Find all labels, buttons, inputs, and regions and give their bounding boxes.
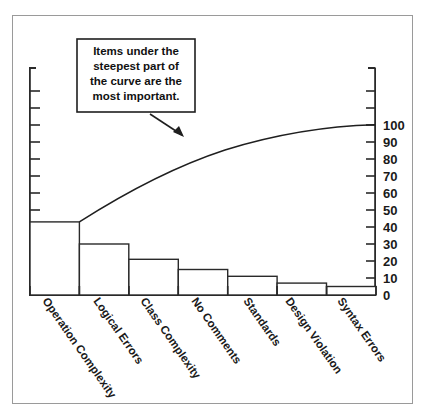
right-tick-label-70: 70 [383, 169, 397, 184]
x-axis-category-labels: Operation Complexity Logical Errors Clas… [40, 295, 388, 400]
bar-logical-errors[interactable] [79, 244, 128, 295]
right-tick-label-60: 60 [383, 186, 397, 201]
callout-arrow-icon [150, 114, 184, 137]
callout-line-2: steepest part of [93, 60, 179, 72]
pareto-chart: 0 10 20 30 40 50 60 70 80 90 100 [0, 0, 426, 419]
cumulative-curve [79, 125, 375, 222]
bar-class-complexity[interactable] [129, 259, 178, 295]
bar-syntax-errors[interactable] [327, 287, 376, 296]
right-tick-label-30: 30 [383, 237, 397, 252]
right-tick-label-0: 0 [383, 288, 390, 303]
cat-label-syntax-errors: Syntax Errors [335, 295, 388, 364]
right-tick-label-80: 80 [383, 152, 397, 167]
bars-group [30, 222, 376, 295]
right-axis-tick-labels: 0 10 20 30 40 50 60 70 80 90 100 [383, 118, 405, 303]
right-tick-label-20: 20 [383, 254, 397, 269]
right-tick-label-50: 50 [383, 203, 397, 218]
cat-label-standards: Standards [241, 295, 283, 348]
bar-design-violation[interactable] [277, 283, 326, 295]
cat-label-design-violation: Design Violation [283, 295, 344, 376]
right-tick-label-10: 10 [383, 271, 397, 286]
right-tick-label-100: 100 [383, 118, 405, 133]
cat-label-no-comments: No Comments [189, 295, 244, 366]
bar-no-comments[interactable] [178, 270, 227, 296]
callout-line-3: the curve are the [90, 75, 182, 87]
bar-operation-complexity[interactable] [30, 222, 79, 295]
callout-line-4: most important. [93, 90, 180, 102]
screenshot-root: 0 10 20 30 40 50 60 70 80 90 100 [0, 0, 426, 419]
bar-standards[interactable] [228, 276, 277, 295]
callout-line-1: Items under the [93, 45, 179, 57]
cat-label-logical-errors: Logical Errors [91, 295, 146, 366]
right-tick-label-90: 90 [383, 135, 397, 150]
right-tick-label-40: 40 [383, 220, 397, 235]
